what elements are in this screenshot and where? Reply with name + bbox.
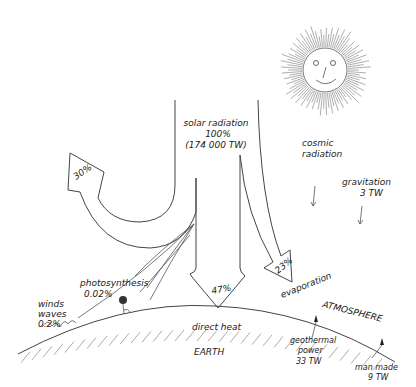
cosmic-label-line2: radiation [302,149,342,159]
reflected-percent: 30% [71,162,93,182]
man-made-label: man made [355,363,398,372]
earth-surface [18,305,395,369]
solar-radiation-beam [68,100,292,308]
man-made-power: 9 TW [368,373,390,382]
earth-label: EARTH [194,347,225,357]
smiling-sun-icon [281,26,371,115]
winds-label: winds [38,299,64,309]
winds-waves-percent: 0.2% [38,319,61,329]
direct-heat-label: direct heat [192,322,242,332]
gravitation-arrow [358,206,363,224]
cosmic-label-line1: cosmic [302,138,333,148]
gravitation-power: 3 TW [360,188,384,198]
gravitation-label: gravitation [342,177,391,187]
evaporation-label: evaporation [279,270,333,300]
energy-flow-diagram: solar radiation 100% (174 000 TW) 30% 47… [0,0,416,387]
photosynthesis-label: photosynthesis [79,278,149,288]
geothermal-line1: geothermal [290,336,337,345]
cosmic-arrow [311,186,316,206]
direct-heat-percent: 47% [211,283,232,296]
waves-label: waves [38,309,67,319]
solar-power: (174 000 TW) [185,140,247,150]
geothermal-power: 33 TW [296,357,323,366]
solar-radiation-label: solar radiation [184,118,249,128]
secondary-flow-lines [78,224,194,318]
atmosphere-label: ATMOSPHERE [321,299,384,324]
photosynthesis-percent: 0.02% [84,289,113,299]
flower-icon [119,296,130,314]
solar-percent: 100% [205,129,231,139]
geothermal-line2: power [297,346,323,355]
